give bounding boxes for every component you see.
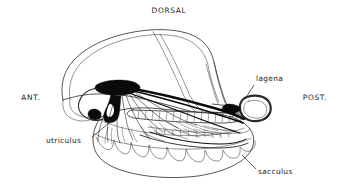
label-utriculus: utriculus [46, 136, 81, 145]
inner-ear-figure: DORSAL ANT. POST. lagena utriculus saccu… [0, 0, 338, 195]
label-posterior: POST. [303, 93, 327, 102]
label-sacculus: sacculus [258, 167, 293, 176]
label-dorsal: DORSAL [152, 6, 187, 15]
label-lagena: lagena [256, 74, 283, 83]
label-anterior: ANT. [21, 93, 40, 102]
sacculus-leader [242, 155, 256, 169]
inner-ear-illustration: DORSAL ANT. POST. lagena utriculus saccu… [0, 0, 338, 195]
